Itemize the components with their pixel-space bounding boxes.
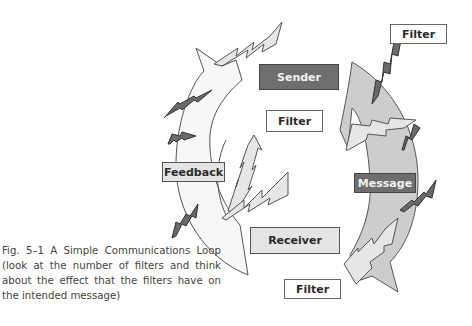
receiver-box: Receiver [250, 227, 340, 254]
feedback-box: Feedback [162, 162, 225, 182]
lightning-bolt-icon [222, 172, 288, 220]
filter-box-middle: Filter [266, 110, 323, 132]
sender-box: Sender [259, 64, 339, 90]
figure-caption: Fig. 5–1 A Simple Communications Loop (l… [2, 243, 221, 303]
filter-box-bottom: Filter [284, 279, 341, 299]
message-box: Message [354, 173, 416, 193]
filter-box-top-right: Filter [390, 24, 447, 44]
lightning-bolt-icon [214, 22, 282, 66]
